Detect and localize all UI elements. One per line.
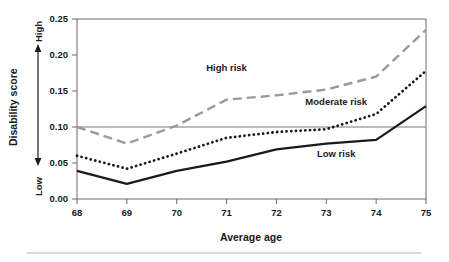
y-tick-label: 0.20 bbox=[50, 49, 69, 60]
series-label-low-risk: Low risk bbox=[317, 148, 356, 159]
x-tick-label: 74 bbox=[371, 207, 382, 218]
y-tick-label: 0.00 bbox=[50, 193, 69, 204]
x-tick-label: 71 bbox=[221, 207, 232, 218]
x-tick-label: 69 bbox=[122, 207, 133, 218]
y-axis-title: Disability score bbox=[7, 68, 19, 146]
x-tick-label: 72 bbox=[271, 207, 282, 218]
y-tick-label: 0.25 bbox=[50, 13, 69, 24]
x-tick-label: 75 bbox=[421, 207, 432, 218]
y-axis-low-label: Low bbox=[33, 176, 44, 196]
x-tick-label: 73 bbox=[321, 207, 332, 218]
series-label-moderate-risk: Moderate risk bbox=[305, 96, 367, 107]
x-tick-label: 70 bbox=[171, 207, 182, 218]
x-tick-label: 68 bbox=[72, 207, 83, 218]
y-axis-high-label: High bbox=[33, 21, 44, 42]
x-axis-title: Average age bbox=[220, 231, 282, 243]
y-tick-label: 0.10 bbox=[50, 121, 69, 132]
y-tick-label: 0.05 bbox=[50, 157, 69, 168]
disability-score-by-average-age-chart: 0.000.050.100.150.200.25 686970717273747… bbox=[0, 0, 449, 262]
series-label-high-risk: High risk bbox=[206, 62, 247, 73]
y-tick-label: 0.15 bbox=[50, 85, 69, 96]
